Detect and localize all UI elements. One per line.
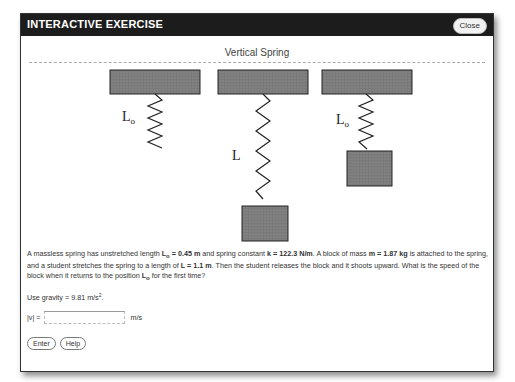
m-value: m = 1.87 kg xyxy=(369,249,408,258)
problem-statement: A massless spring has unstretched length… xyxy=(27,249,489,284)
action-buttons: Enter Help xyxy=(27,337,86,350)
label-lo-left: Lo xyxy=(122,109,136,126)
speed-answer-input[interactable] xyxy=(44,311,125,324)
panel-returned xyxy=(322,70,412,186)
spring-diagram: Lo L Lo xyxy=(21,14,495,246)
exercise-window: INTERACTIVE EXERCISE Close Vertical Spri… xyxy=(20,13,494,372)
k-value: k = 122.3 N/m xyxy=(267,249,313,258)
lo-symbol: Lo xyxy=(142,271,150,280)
answer-row: |v| = m/s xyxy=(27,311,142,324)
l-value: L = 1.1 m xyxy=(181,261,212,270)
lo-value: Lo = 0.45 m xyxy=(162,249,201,258)
enter-button[interactable]: Enter xyxy=(27,337,56,350)
problem-text: for the first time? xyxy=(150,271,206,280)
problem-text: . A block of mass xyxy=(313,249,369,258)
answer-label: |v| = xyxy=(27,313,41,322)
label-lo-right: Lo xyxy=(336,112,350,129)
problem-text: A massless spring has unstretched length xyxy=(27,249,162,258)
gravity-note: Use gravity = 9.81 m/s2. xyxy=(27,292,103,302)
answer-unit: m/s xyxy=(131,313,143,322)
label-l-middle: L xyxy=(232,148,241,163)
problem-text: and spring constant xyxy=(200,249,267,258)
help-button[interactable]: Help xyxy=(60,337,86,350)
